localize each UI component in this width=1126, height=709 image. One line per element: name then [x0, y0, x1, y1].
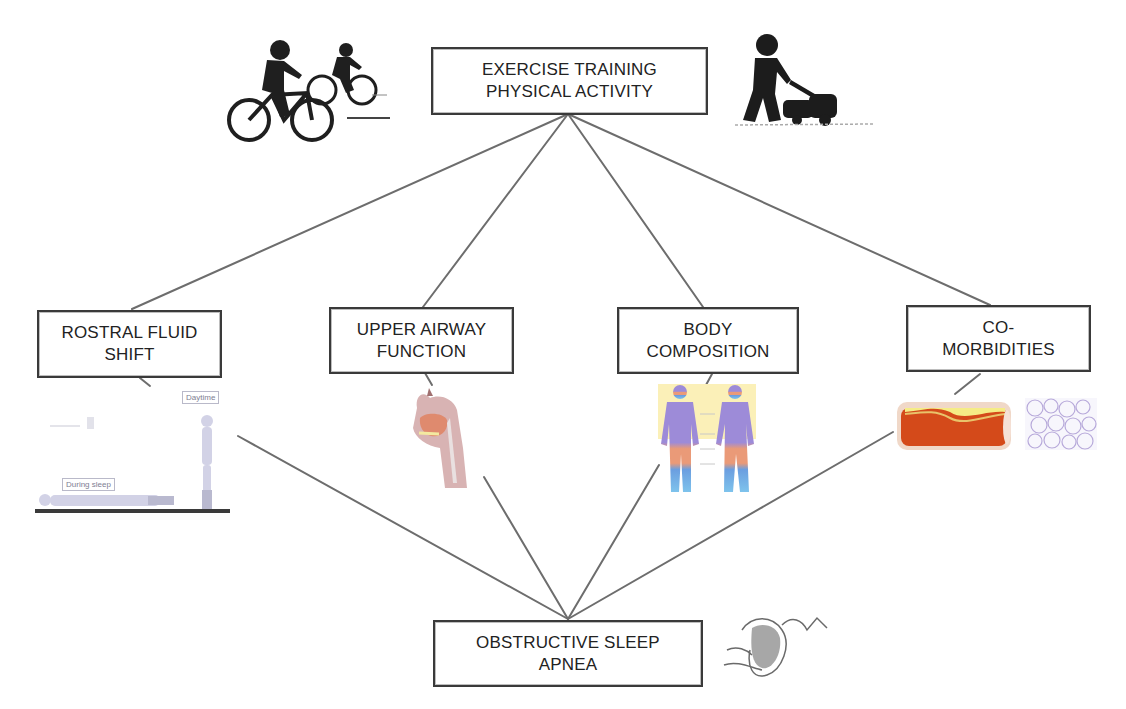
node-label-line2: FUNCTION	[377, 341, 466, 363]
node-label-line1: ROSTRAL FLUID	[61, 322, 197, 344]
node-rostral-fluid-shift: ROSTRAL FLUID SHIFT	[37, 310, 222, 378]
node-comorbidities: CO- MORBIDITIES	[906, 305, 1091, 372]
node-label-line2: APNEA	[539, 654, 598, 676]
atherosclerotic-artery-icon	[895, 400, 1013, 452]
fluid-shift-illustration: Daytime During sleep	[30, 385, 235, 520]
stub-comorb	[955, 374, 980, 394]
node-obstructive-sleep-apnea: OBSTRUCTIVE SLEEP APNEA	[433, 620, 703, 687]
lawn-mowing-icon	[725, 32, 885, 132]
node-body-composition: BODY COMPOSITION	[617, 307, 799, 374]
node-exercise-training: EXERCISE TRAINING PHYSICAL ACTIVITY	[431, 47, 708, 115]
body-composition-icon	[655, 384, 760, 499]
daytime-label: Daytime	[182, 391, 219, 404]
during-sleep-label: During sleep	[62, 478, 115, 491]
diagram-canvas: EXERCISE TRAINING PHYSICAL ACTIVITY ROST…	[0, 0, 1126, 709]
node-label-line1: BODY	[684, 319, 733, 341]
edge-top-to-comorb	[568, 114, 990, 305]
node-label-line1: CO-	[983, 317, 1015, 339]
stub-airway	[425, 373, 432, 385]
upper-airway-anatomy-icon	[405, 388, 475, 493]
edge-top-to-body	[568, 114, 703, 307]
node-label-line1: OBSTRUCTIVE SLEEP	[476, 632, 660, 654]
adipose-tissue-icon	[1025, 398, 1097, 450]
fluid-shift-figures	[30, 385, 235, 520]
node-label-line1: EXERCISE TRAINING	[482, 59, 657, 81]
node-label-line2: COMPOSITION	[646, 341, 769, 363]
edge-rostral-to-osa	[238, 436, 568, 619]
edge-airway-to-osa	[484, 477, 568, 619]
node-label-line2: PHYSICAL ACTIVITY	[486, 81, 653, 103]
node-label-line2: MORBIDITIES	[942, 339, 1055, 361]
edge-top-to-airway	[423, 114, 568, 307]
cycling-icon	[222, 35, 392, 145]
collapsed-airway-icon	[722, 610, 832, 685]
node-upper-airway-function: UPPER AIRWAY FUNCTION	[329, 307, 514, 374]
edge-body-to-osa	[568, 465, 659, 619]
node-label-line1: UPPER AIRWAY	[357, 319, 487, 341]
node-label-line2: SHIFT	[104, 344, 154, 366]
